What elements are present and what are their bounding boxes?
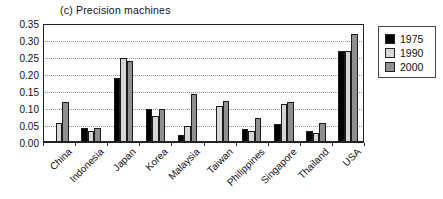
x-axis-tick bbox=[171, 143, 172, 146]
x-axis-tick bbox=[107, 143, 108, 146]
gridline-0.10 bbox=[43, 109, 364, 110]
x-axis-tick bbox=[75, 143, 76, 146]
bar-Indonesia-2000 bbox=[94, 128, 101, 143]
bar-Japan-2000 bbox=[127, 61, 134, 143]
gridline-0.30 bbox=[43, 41, 364, 42]
plot-area bbox=[43, 24, 364, 143]
legend-item-1975: 1975 bbox=[385, 32, 435, 45]
x-axis-tick bbox=[204, 143, 205, 146]
legend-label-2000: 2000 bbox=[400, 61, 423, 73]
legend-item-1990: 1990 bbox=[385, 46, 435, 59]
bar-Korea-2000 bbox=[159, 109, 166, 143]
legend-label-1990: 1990 bbox=[400, 47, 423, 59]
y-tick-label: 0.15 bbox=[0, 87, 39, 98]
gridline-0.20 bbox=[43, 75, 364, 76]
gridline-0.15 bbox=[43, 92, 364, 93]
x-axis-tick bbox=[43, 143, 44, 146]
x-axis-tick bbox=[300, 143, 301, 146]
x-axis-tick bbox=[139, 143, 140, 146]
chart-figure: (c) Precision machines 1975 1990 2000 0.… bbox=[0, 0, 443, 199]
bar-Thailand-2000 bbox=[319, 123, 326, 143]
chart-title: (c) Precision machines bbox=[60, 4, 171, 16]
bar-USA-2000 bbox=[351, 34, 358, 143]
y-tick-label: 0.30 bbox=[0, 36, 39, 47]
y-tick-label: 0.10 bbox=[0, 104, 39, 115]
bar-Malaysia-2000 bbox=[191, 94, 198, 143]
y-tick-label: 0.20 bbox=[0, 70, 39, 81]
x-axis-tick bbox=[236, 143, 237, 146]
y-tick-label: 0.00 bbox=[0, 138, 39, 149]
gridline-0.25 bbox=[43, 58, 364, 59]
legend-label-1975: 1975 bbox=[400, 33, 423, 45]
bar-Singapore-2000 bbox=[287, 102, 294, 143]
legend-swatch-2000 bbox=[385, 62, 395, 72]
legend: 1975 1990 2000 bbox=[378, 26, 436, 78]
y-tick-label: 0.35 bbox=[0, 19, 39, 30]
y-tick-label: 0.25 bbox=[0, 53, 39, 64]
x-axis-tick bbox=[332, 143, 333, 146]
legend-item-2000: 2000 bbox=[385, 60, 435, 73]
x-axis-tick bbox=[364, 143, 365, 146]
bar-Philippines-2000 bbox=[255, 118, 262, 144]
legend-swatch-1990 bbox=[385, 48, 395, 58]
bar-Taiwan-2000 bbox=[223, 101, 230, 144]
bar-China-2000 bbox=[62, 102, 69, 143]
gridline-0.05 bbox=[43, 126, 364, 127]
legend-swatch-1975 bbox=[385, 34, 395, 44]
x-axis-tick bbox=[268, 143, 269, 146]
y-tick-label: 0.05 bbox=[0, 121, 39, 132]
